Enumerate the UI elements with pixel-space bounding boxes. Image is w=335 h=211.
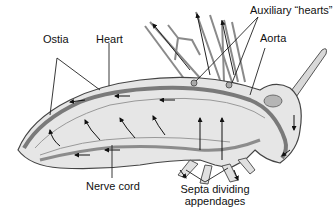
label-nerve-cord: Nerve cord: [86, 180, 140, 192]
label-aorta: Aorta: [260, 32, 286, 44]
label-septa-line2: appendages: [175, 195, 255, 207]
wing-appendages: [145, 12, 245, 82]
aux-heart-leader-1: [196, 17, 258, 81]
label-heart: Heart: [96, 33, 123, 45]
label-septa: Septa dividing appendages: [175, 183, 255, 207]
label-septa-line1: Septa dividing: [175, 183, 255, 195]
aux-heart-leader-2: [232, 17, 258, 83]
ostia-leader-1: [50, 58, 57, 115]
label-auxiliary-hearts: Auxiliary “hearts”: [250, 4, 333, 16]
label-ostia: Ostia: [43, 33, 69, 45]
ostia-leader-2: [57, 58, 100, 90]
